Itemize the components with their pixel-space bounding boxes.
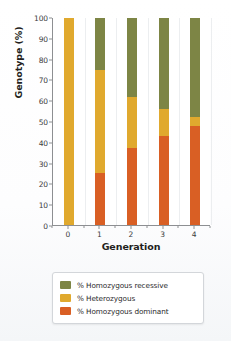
x-axis-minor-tick-mark (83, 226, 84, 228)
x-axis-minor-tick-mark (115, 226, 116, 228)
bar-series-container (53, 18, 210, 225)
y-axis-tick-label: 10 (39, 201, 48, 210)
bar-segment[interactable] (190, 126, 200, 225)
bar-segment[interactable] (127, 97, 137, 149)
bar-segment[interactable] (159, 109, 169, 136)
legend-color-swatch (60, 307, 71, 315)
stacked-bar[interactable] (127, 18, 137, 225)
x-axis-tick-mark (131, 226, 132, 229)
y-axis-tick-label: 0 (43, 222, 48, 231)
bar-column[interactable] (64, 18, 74, 225)
bar-segment[interactable] (190, 117, 200, 125)
legend-item-label: % Homozygous recessive (77, 281, 168, 290)
y-axis-tick-label: 50 (39, 118, 48, 127)
legend-item[interactable]: % Homozygous dominant (60, 305, 197, 317)
bar-segment[interactable] (95, 70, 105, 174)
bar-column[interactable] (127, 18, 137, 225)
chart-legend: % Homozygous recessive% Heterozygous% Ho… (52, 272, 204, 324)
y-axis-tick-label: 40 (39, 138, 48, 147)
x-axis-tick-mark (67, 226, 68, 229)
y-axis-tick-label: 70 (39, 76, 48, 85)
x-axis-tick-label: 3 (160, 230, 165, 239)
legend-item-label: % Heterozygous (77, 294, 135, 303)
legend-item[interactable]: % Heterozygous (60, 292, 197, 304)
x-axis-tick-labels: 01234 (52, 226, 210, 242)
x-axis-tick-label: 2 (129, 230, 134, 239)
bar-column[interactable] (159, 18, 169, 225)
axes-frame (52, 18, 210, 226)
x-axis-tick-label: 4 (192, 230, 197, 239)
bar-segment[interactable] (95, 173, 105, 225)
bar-column[interactable] (190, 18, 200, 225)
x-axis-minor-tick-mark (52, 226, 53, 228)
x-axis-tick-mark (99, 226, 100, 229)
x-axis-minor-tick-mark (146, 226, 147, 228)
bar-segment[interactable] (127, 148, 137, 225)
bar-segment[interactable] (159, 18, 169, 109)
y-axis-tick-label: 60 (39, 97, 48, 106)
y-axis-tick-label: 80 (39, 55, 48, 64)
y-axis-tick-label: 100 (34, 14, 48, 23)
legend-item[interactable]: % Homozygous recessive (60, 279, 197, 291)
genotype-frequency-chart: Genotype (%) 0102030405060708090100 0123… (0, 0, 231, 341)
gridline (211, 18, 212, 225)
stacked-bar[interactable] (159, 18, 169, 225)
y-axis-tick-label: 30 (39, 159, 48, 168)
bar-segment[interactable] (159, 136, 169, 225)
legend-item-label: % Homozygous dominant (77, 307, 168, 316)
legend-color-swatch (60, 294, 71, 302)
stacked-bar[interactable] (190, 18, 200, 225)
bar-segment[interactable] (190, 18, 200, 117)
y-axis-tick-labels: 0102030405060708090100 (26, 18, 52, 226)
bar-column[interactable] (95, 18, 105, 225)
x-axis-title: Generation (52, 241, 210, 252)
y-axis-tick-label: 20 (39, 180, 48, 189)
x-axis-minor-tick-mark (178, 226, 179, 228)
y-axis-title: Genotype (%) (13, 0, 24, 133)
bar-segment[interactable] (127, 18, 137, 97)
stacked-bar[interactable] (64, 18, 74, 225)
bar-segment[interactable] (64, 18, 74, 225)
x-axis-tick-mark (162, 226, 163, 229)
x-axis-tick-label: 1 (97, 230, 102, 239)
x-axis-minor-tick-mark (210, 226, 211, 228)
stacked-bar[interactable] (95, 18, 105, 225)
x-axis-tick-label: 0 (65, 230, 70, 239)
legend-color-swatch (60, 281, 71, 289)
y-axis-tick-label: 90 (39, 34, 48, 43)
bar-segment[interactable] (95, 18, 105, 70)
plot-area: Genotype (%) 0102030405060708090100 0123… (0, 0, 231, 250)
x-axis-tick-mark (194, 226, 195, 229)
